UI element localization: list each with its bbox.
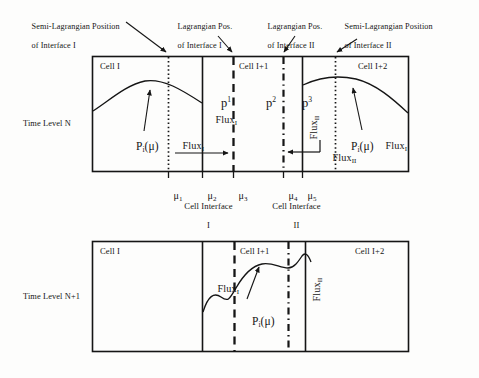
cell-interface-II-caption-line2: II (294, 220, 300, 230)
cell-interface-I-caption: Cell Interface I (164, 192, 244, 240)
annotation-lagrangian-I-line2: of Interface I (178, 41, 222, 50)
annotation-semi-lagrangian-II-line2: of Interface II (345, 41, 392, 50)
annotation-lagrangian-II: Lagrangian Pos. of Interface II (259, 13, 322, 59)
annotation-semi-lagrangian-I: Semi-Lagrangian Position of Interface I (23, 13, 120, 59)
time-level-n-label: Time Level N (23, 119, 71, 128)
cell-interface-II-caption-line1: Cell Interface (272, 201, 320, 211)
flux-label-II-horizontal: FluxII (322, 141, 357, 176)
flux-label-I-cell-i1-base: Flux (216, 114, 235, 125)
bottom-flux-label-I: FluxI (207, 272, 239, 307)
bottom-distribution-pi-mu: Pi(μ) (240, 302, 275, 341)
annotation-semi-lagrangian-I-line2: of Interface I (32, 41, 76, 50)
flux-label-II-vertical-subscript: II (313, 115, 321, 120)
annotation-semi-lagrangian-II-line1: Semi-Lagrangian Position (345, 22, 433, 31)
bottom-flux-label-I-subscript: I (237, 288, 239, 296)
bottom-distribution-pi-mu-subscript: i (258, 320, 260, 329)
annotation-lagrangian-II-line1: Lagrangian Pos. (268, 22, 323, 31)
distribution-pi-mu-cell-i-subscript: i (142, 145, 144, 154)
flux-label-I-cell-i-subscript: I (202, 145, 204, 153)
time-level-n-plus-1-label: Time Level N+1 (23, 292, 80, 301)
flux-label-I-cell-i2: FluxI (375, 129, 407, 164)
bottom-cell-label-i-plus-1: Cell I+1 (240, 247, 269, 257)
annotation-lagrangian-II-line2: of Interface II (268, 41, 315, 50)
pointer-pi-mu-cell-i2 (353, 88, 362, 130)
annotation-semi-lagrangian-II: Semi-Lagrangian Position of Interface II (336, 13, 433, 59)
bottom-flux-label-II-subscript: II (316, 277, 324, 282)
leader-semi-lagrangian-I (126, 22, 166, 52)
pressure-field-p3-superscript: 3 (308, 95, 312, 104)
figure-canvas: Semi-Lagrangian Position of Interface I … (0, 0, 479, 378)
bottom-distribution-pi-mu-argument: (μ) (261, 315, 275, 327)
cell-interface-I-caption-line1: Cell Interface (184, 201, 232, 211)
flux-label-I-cell-i1: FluxI (205, 103, 237, 138)
bottom-cell-label-i-plus-2: Cell I+2 (355, 247, 384, 257)
flux-label-I-cell-i2-subscript: I (405, 145, 407, 153)
distribution-pi-mu-cell-i: Pi(μ) (124, 127, 159, 166)
annotation-lagrangian-I-line1: Lagrangian Pos. (178, 22, 233, 31)
distribution-pi-mu-cell-i2-subscript: i (357, 145, 359, 154)
flux-label-I-cell-i: FluxI (172, 129, 204, 164)
distribution-pi-mu-cell-i2-argument: (μ) (360, 140, 374, 152)
pointer-pi-mu-cell-i (144, 90, 150, 131)
cell-interface-II-caption: Cell Interface II (252, 192, 332, 240)
top-cell-label-i-plus-2: Cell I+2 (358, 62, 387, 72)
flux-label-II-horizontal-subscript: II (352, 157, 357, 165)
distribution-pi-mu-cell-i-argument: (μ) (145, 140, 159, 152)
top-cell-label-i-plus-1: Cell I+1 (239, 62, 268, 72)
bottom-cell-label-i: Cell I (100, 247, 120, 257)
pressure-field-p2-superscript: 2 (272, 95, 276, 104)
flux-label-II-horizontal-base: Flux (333, 152, 352, 163)
mu-tick-label-3-subscript: 3 (244, 195, 248, 203)
flux-label-I-cell-i2-base: Flux (386, 140, 405, 151)
flux-label-II-vertical-base: Flux (308, 120, 319, 139)
cell-interface-I-caption-line2: I (207, 220, 210, 230)
annotation-lagrangian-I: Lagrangian Pos. of Interface I (169, 13, 232, 59)
top-profile-curve-cell-i2 (303, 77, 408, 113)
top-cell-label-i: Cell I (100, 62, 120, 72)
pressure-field-p2: p2 (253, 82, 276, 124)
bottom-flux-label-II: FluxII (300, 277, 335, 312)
flux-label-I-cell-i-base: Flux (183, 140, 202, 151)
flux-label-I-cell-i1-subscript: I (235, 119, 237, 127)
bottom-flux-label-II-base: Flux (311, 282, 322, 301)
annotation-semi-lagrangian-I-line1: Semi-Lagrangian Position (32, 22, 120, 31)
bottom-flux-label-I-base: Flux (218, 283, 237, 294)
